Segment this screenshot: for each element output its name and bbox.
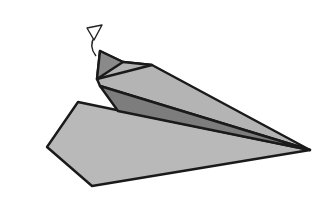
fold-arrow-head bbox=[87, 25, 102, 40]
paper-airplane-diagram bbox=[0, 0, 332, 197]
paper-airplane bbox=[47, 51, 310, 186]
